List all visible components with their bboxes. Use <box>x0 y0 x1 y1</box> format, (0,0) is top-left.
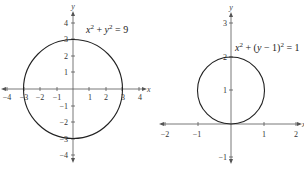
svg-text:−4: −4 <box>3 93 12 102</box>
left-y-axis-label: y <box>70 2 75 11</box>
svg-text:−1: −1 <box>218 153 227 162</box>
svg-text:4: 4 <box>138 93 142 102</box>
svg-text:4: 4 <box>64 19 68 28</box>
svg-text:−3: −3 <box>59 135 68 144</box>
right-x-tick-labels: −2 −1 1 2 <box>161 130 298 139</box>
svg-text:1: 1 <box>262 130 266 139</box>
svg-text:1: 1 <box>223 86 227 95</box>
right-graph: −2 −1 1 2 3 2 1 −1 y x x2 + (y − 1)2 = 1 <box>159 3 304 164</box>
right-equation-label: x2 + (y − 1)2 = 1 <box>234 41 300 54</box>
left-y-axis-arrow-down-icon <box>71 158 75 163</box>
svg-text:3: 3 <box>223 19 227 28</box>
figure: −4 −3 −2 −1 1 2 3 4 4 3 2 1 −1 −2 −3 −4 … <box>0 0 304 171</box>
svg-text:−4: −4 <box>59 151 68 160</box>
left-x-axis-label: x <box>146 85 151 94</box>
svg-text:−2: −2 <box>36 93 45 102</box>
svg-text:1: 1 <box>64 68 68 77</box>
left-y-axis-arrow-up-icon <box>71 11 75 16</box>
right-y-tick-labels: 3 2 1 −1 <box>218 19 227 162</box>
svg-text:1: 1 <box>88 93 92 102</box>
right-y-axis-arrow-down-icon <box>229 159 233 164</box>
svg-text:2: 2 <box>104 93 108 102</box>
right-x-axis-label: x <box>301 120 304 129</box>
svg-text:−1: −1 <box>193 130 202 139</box>
right-y-axis-arrow-up-icon <box>229 12 233 17</box>
right-y-axis-label: y <box>228 3 233 12</box>
left-equation-label: x2 + y2 = 9 <box>85 23 128 35</box>
left-graph: −4 −3 −2 −1 1 2 3 4 4 3 2 1 −1 −2 −3 −4 … <box>1 2 151 163</box>
svg-text:−1: −1 <box>53 93 62 102</box>
svg-text:−1: −1 <box>59 102 68 111</box>
svg-text:−2: −2 <box>161 130 170 139</box>
left-x-axis-arrow-left-icon <box>1 87 6 91</box>
svg-text:2: 2 <box>64 52 68 61</box>
svg-text:2: 2 <box>294 130 298 139</box>
right-x-axis-arrow-left-icon <box>159 122 164 126</box>
svg-text:−2: −2 <box>59 118 68 127</box>
